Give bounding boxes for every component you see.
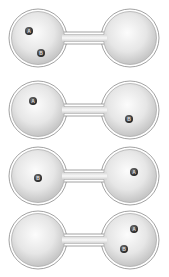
svg-text:B: B: [127, 116, 131, 122]
particle-a: A: [25, 27, 33, 35]
svg-text:A: A: [27, 28, 31, 34]
two-bulb-vessel: [9, 211, 159, 269]
svg-text:A: A: [31, 98, 35, 104]
svg-text:A: A: [132, 169, 136, 175]
configuration-1: A B: [9, 9, 159, 67]
particle-a: A: [29, 97, 37, 105]
configuration-4: A B: [9, 211, 159, 269]
svg-text:B: B: [36, 175, 40, 181]
svg-text:B: B: [39, 50, 43, 56]
particle-b: B: [120, 245, 128, 253]
particle-a: A: [130, 168, 138, 176]
particle-a: A: [130, 225, 138, 233]
two-bulb-vessel: [9, 81, 159, 139]
two-bulb-vessel: [9, 147, 159, 205]
svg-text:B: B: [122, 246, 126, 252]
dumbbell-diagram: A B A B B A A: [0, 0, 169, 277]
svg-text:A: A: [132, 226, 136, 232]
configuration-3: B A: [9, 147, 159, 205]
particle-b: B: [34, 174, 42, 182]
particle-b: B: [125, 115, 133, 123]
particle-b: B: [37, 49, 45, 57]
two-bulb-vessel: [9, 9, 159, 67]
configuration-2: A B: [9, 81, 159, 139]
